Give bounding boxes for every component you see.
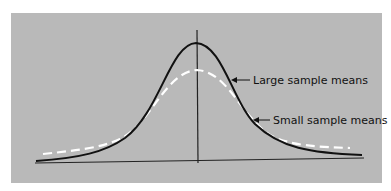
distribution-chart: Large sample means Small sample means bbox=[0, 0, 391, 191]
large-sample-curve bbox=[36, 43, 362, 161]
mean-line bbox=[197, 30, 198, 163]
large-arrow-icon bbox=[231, 77, 237, 83]
large-sample-label: Large sample means bbox=[253, 74, 368, 87]
small-sample-label: Small sample means bbox=[273, 114, 388, 127]
x-axis bbox=[35, 158, 364, 163]
